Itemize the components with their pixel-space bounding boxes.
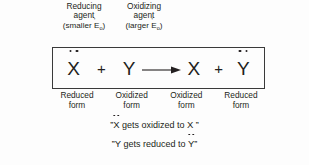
statement-reduction-quote-close: ” (194, 139, 197, 149)
statement-reduction-object: Y (188, 139, 194, 149)
oxidizing-e-notation: E'o (151, 21, 160, 30)
form-label-reactant-1: Reduced form (52, 91, 102, 117)
reducing-paren-open: (smaller (63, 21, 94, 30)
statement-oxidation-quote-close: ” (193, 120, 199, 130)
equation-row: X + Y X + (53, 48, 264, 88)
statement-oxidation-object-symbol: X (187, 119, 193, 130)
statement-reduction-object-electron-pair-icon (187, 134, 195, 138)
reducing-e-notation: E'o (94, 21, 103, 30)
statement-reduction-subject: Y (115, 139, 121, 149)
oxidizing-e-subscript: o (157, 25, 160, 31)
oxidizing-paren-close: ) (160, 21, 163, 30)
reactant-1-symbol: X (67, 58, 80, 79)
reaction-arrow-icon (142, 62, 182, 74)
form-label-product-1-line2: form (161, 101, 211, 111)
product-2-electron-pair-icon (238, 50, 249, 56)
product-1-symbol: X (188, 58, 201, 79)
statement-oxidation-subject: X (113, 120, 119, 130)
statement-reduction-object-symbol: Y (188, 138, 194, 149)
form-label-reactant-1-line2: form (52, 101, 102, 111)
statement-oxidation: ”X gets oxidized to X ” (0, 120, 309, 130)
reducing-e-prime: ' (94, 17, 95, 24)
form-label-product-2-line2: form (216, 101, 266, 111)
form-label-product-1: Oxidized form (161, 91, 211, 117)
reactant-1-species: X (67, 59, 80, 78)
reducing-e-subscript: o (99, 25, 102, 31)
statement-reduction-subject-symbol: Y (115, 138, 121, 149)
statement-reduction: ”Y gets reduced to Y” (0, 139, 309, 149)
product-2-species: Y (237, 59, 250, 78)
form-label-reactant-2: Oxidized form (107, 91, 157, 117)
reactant-2-species: Y (123, 59, 136, 78)
form-label-reactant-2-line2: form (107, 101, 157, 111)
agent-labels-row: Reducing agent (smaller E'o) Oxidizing a… (52, 2, 266, 46)
oxidizing-agent-potential: (larger E'o) (115, 21, 173, 30)
form-labels-row: Reduced form Oxidized form Oxidized form… (52, 91, 266, 117)
reactant-1-electron-pair-icon (68, 50, 79, 56)
reducing-agent-line2: agent (55, 11, 113, 20)
oxidizing-agent-label: Oxidizing agent (larger E'o) (115, 2, 173, 46)
statement-reduction-text: gets reduced to (121, 139, 188, 149)
reducing-agent-potential: (smaller E'o) (55, 21, 113, 30)
redox-diagram: Reducing agent (smaller E'o) Oxidizing a… (0, 0, 309, 165)
form-label-product-2: Reduced form (216, 91, 266, 117)
oxidizing-agent-line2: agent (115, 11, 173, 20)
product-2-symbol: Y (237, 58, 250, 79)
statement-oxidation-subject-symbol: X (113, 119, 119, 130)
oxidizing-paren-open: (larger (126, 21, 152, 30)
oxidizing-e-prime: ' (151, 17, 152, 24)
operator-plus-2: + (214, 61, 223, 76)
operator-plus-1: + (97, 61, 106, 76)
reducing-agent-label: Reducing agent (smaller E'o) (55, 2, 113, 46)
statements-block: ”X gets oxidized to X ” ”Y gets reduced … (0, 120, 309, 158)
reactant-2-symbol: Y (123, 58, 136, 79)
equation-box: X + Y X + (52, 47, 265, 89)
statement-oxidation-text: gets oxidized to (119, 120, 187, 130)
product-1-species: X (188, 59, 201, 78)
statement-oxidation-object: X (187, 120, 193, 130)
